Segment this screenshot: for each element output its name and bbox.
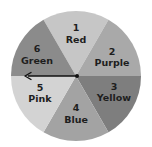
segment-purple-label: Purple [95, 57, 130, 68]
segment-blue-label: Blue [64, 114, 88, 125]
arrow-pivot [75, 74, 79, 78]
segment-pink-number: 5 [37, 82, 44, 93]
segment-pink-label: Pink [28, 93, 52, 104]
segment-purple-number: 2 [109, 46, 116, 57]
segment-green-label: Green [21, 55, 53, 66]
segment-blue-number: 4 [73, 102, 80, 113]
segment-green-number: 6 [34, 43, 41, 54]
segment-yellow-label: Yellow [96, 92, 131, 103]
segment-red-number: 1 [73, 22, 80, 33]
segment-red-label: Red [66, 34, 87, 45]
segment-yellow-number: 3 [111, 81, 118, 92]
spinner-wheel[interactable]: 1 Red 2 Purple 3 Yellow 4 Blue 5 Pink 6 … [0, 0, 152, 147]
